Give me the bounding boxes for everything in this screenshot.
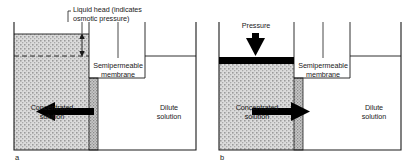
panel-b-pressure-arrow-down <box>246 33 265 56</box>
panel-b-tag: b <box>220 154 224 162</box>
panel-a-semipermeable-membrane-label: Semipermeable membrane <box>83 62 153 79</box>
panel-a-liquid-head-label: Liquid head (indicates osmotic pressure) <box>73 6 195 23</box>
panel-a-dilute-solution-label: Dilute solution <box>143 104 195 121</box>
panel-a <box>14 11 196 150</box>
osmosis-reverse-osmosis-figure: Liquid head (indicates osmotic pressure)… <box>0 0 410 168</box>
panel-b-dilute-solution-label: Dilute solution <box>348 104 400 121</box>
panel-b-semipermeable-membrane-label: Semipermeable membrane <box>288 62 358 79</box>
panel-b <box>219 22 401 150</box>
panel-a-callout-leader <box>68 11 71 22</box>
panel-a-tag: a <box>15 154 19 162</box>
panel-b-concentrated-solution-label: Concentrated solution <box>224 104 290 121</box>
panel-b-pressure-piston <box>219 57 294 64</box>
panel-a-concentrated-fill <box>14 34 89 150</box>
figure-canvas <box>0 0 410 168</box>
panel-a-concentrated-solution-label: Concentrated solution <box>19 104 85 121</box>
panel-b-pressure-label: Pressure <box>228 22 284 31</box>
